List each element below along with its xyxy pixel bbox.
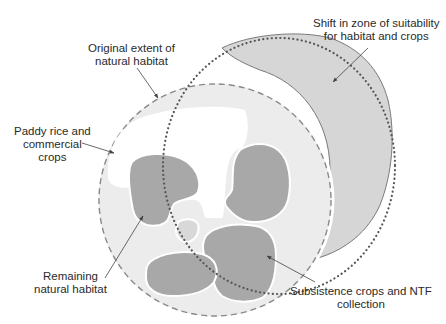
habitat-patch-small — [176, 219, 199, 242]
subsistence-patch-2 — [146, 252, 217, 296]
label-line: natural habitat — [34, 283, 107, 296]
label-line: Remaining — [34, 270, 107, 283]
label-line: collection — [290, 298, 432, 311]
label-paddy-rice: Paddy rice and commercial crops — [14, 125, 91, 164]
diagram: Original extent of natural habitat Paddy… — [0, 0, 446, 324]
label-original-extent: Original extent of natural habitat — [88, 42, 175, 68]
label-line: Shift in zone of suitability — [313, 17, 440, 30]
label-subsistence: Subsistence crops and NTF collection — [290, 285, 432, 311]
label-line: natural habitat — [88, 55, 175, 68]
label-line: crops — [14, 151, 91, 164]
label-line: Paddy rice and — [14, 125, 91, 138]
label-shift-zone: Shift in zone of suitability for habitat… — [313, 17, 440, 43]
arrow-original-extent — [137, 68, 158, 98]
label-remaining-habitat: Remaining natural habitat — [34, 270, 107, 296]
label-line: for habitat and crops — [313, 30, 440, 43]
label-line: Subsistence crops and NTF — [290, 285, 432, 298]
label-line: Original extent of — [88, 42, 175, 55]
label-line: commercial — [14, 138, 91, 151]
